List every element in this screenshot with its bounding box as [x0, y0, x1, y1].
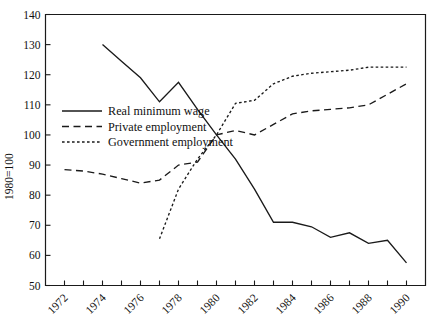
- y-tick-label: 120: [23, 69, 41, 81]
- chart-figure: 5060708090100110120130140 19721974197619…: [0, 0, 433, 335]
- chart-canvas: 5060708090100110120130140 19721974197619…: [0, 0, 433, 335]
- x-tick-label: 1976: [121, 291, 146, 316]
- y-tick-label: 80: [29, 189, 41, 201]
- x-axis-tick-labels: 1972197419761978198019821984198619881990: [45, 291, 412, 316]
- x-axis-ticks: [65, 281, 407, 286]
- x-tick-label: 1980: [197, 291, 222, 316]
- x-tick-label: 1990: [387, 291, 412, 316]
- y-axis-title: 1980=100: [3, 153, 15, 200]
- x-tick-label: 1978: [159, 291, 184, 316]
- y-tick-label: 70: [29, 219, 41, 231]
- series-line-dotted: [160, 67, 407, 239]
- y-tick-label: 100: [23, 129, 41, 141]
- x-tick-label: 1974: [83, 291, 108, 316]
- y-axis-ticks: [46, 15, 51, 286]
- x-tick-label: 1982: [235, 291, 260, 316]
- y-tick-label: 140: [23, 9, 41, 21]
- y-tick-label: 130: [23, 39, 41, 51]
- x-tick-label: 1986: [311, 291, 336, 316]
- legend-label: Private employment: [108, 120, 207, 134]
- y-tick-label: 110: [24, 99, 41, 111]
- y-tick-label: 60: [29, 249, 41, 261]
- legend-label: Real minimum wage: [108, 104, 210, 118]
- x-tick-label: 1988: [349, 291, 374, 316]
- legend-label: Government employment: [108, 135, 234, 149]
- series-line-solid: [103, 45, 407, 263]
- y-tick-label: 90: [29, 159, 41, 171]
- chart-legend: Real minimum wagePrivate employmentGover…: [62, 104, 234, 149]
- plot-frame: [46, 15, 426, 286]
- x-tick-label: 1972: [45, 291, 70, 316]
- y-axis-tick-labels: 5060708090100110120130140: [23, 9, 41, 292]
- data-series-group: [65, 45, 407, 263]
- x-tick-label: 1984: [273, 291, 298, 316]
- y-axis-title-label: 1980=100: [3, 153, 15, 200]
- y-tick-label: 50: [29, 280, 41, 292]
